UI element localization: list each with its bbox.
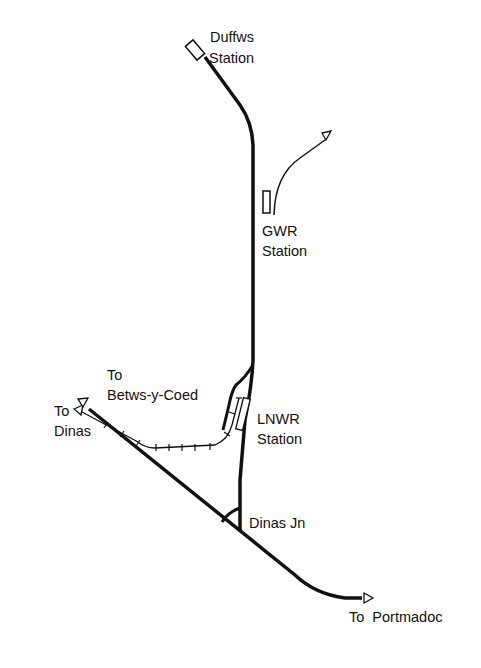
gwr-branch-track — [274, 140, 325, 215]
railway-diagram: Duffws Station GWR Station LNWR Station … — [0, 0, 481, 668]
portmadoc-label: To Portmadoc — [349, 609, 443, 625]
dinas-arrow-icon — [78, 398, 88, 407]
dinas-label: To Dinas — [54, 403, 91, 439]
gwr-branch-arrow-icon — [322, 131, 331, 140]
lnwr-label: LNWR Station — [257, 411, 304, 447]
betws-arrow-icon — [74, 405, 83, 415]
duffws-station-building — [185, 40, 204, 60]
gwr-label: GWR Station — [262, 223, 307, 259]
dinas-jn-curve — [222, 508, 240, 522]
betws-label: To Betws-y-Coed — [107, 367, 198, 403]
portmadoc-arrow-icon — [364, 593, 373, 603]
dinas-jn-label: Dinas Jn — [249, 515, 305, 531]
gwr-station-building — [263, 191, 270, 213]
duffws-label: Duffws Station — [209, 29, 258, 66]
main-line-track — [205, 57, 253, 530]
betws-line-ticks — [104, 398, 242, 451]
